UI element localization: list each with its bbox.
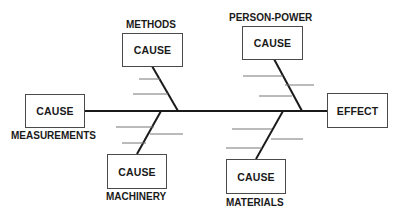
methods-category-label: METHODS: [126, 19, 176, 30]
person-power-category-label: PERSON-POWER: [229, 12, 312, 23]
fishbone-diagram: METHODS CAUSE PERSON-POWER CAUSE CAUSE M…: [0, 0, 397, 216]
methods-cause-box: CAUSE: [122, 33, 183, 67]
person-power-cause-box: CAUSE: [242, 26, 303, 60]
measurements-cause-box: CAUSE: [25, 94, 85, 128]
machinery-branch: [137, 111, 161, 154]
effect-box: EFFECT: [327, 93, 388, 128]
materials-cause-box: CAUSE: [226, 159, 286, 194]
measurements-category-label: MEASUREMENTS: [11, 130, 96, 141]
materials-branch: [256, 111, 283, 159]
materials-category-label: MATERIALS: [226, 197, 284, 208]
machinery-category-label: MACHINERY: [106, 191, 166, 202]
machinery-cause-box: CAUSE: [107, 154, 167, 189]
methods-branch: [152, 66, 178, 111]
